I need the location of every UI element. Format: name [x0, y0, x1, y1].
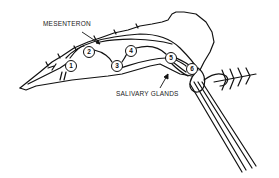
mesenteron-label: MESENTERON — [43, 20, 91, 27]
proboscis — [190, 82, 256, 172]
marker-3: 3 — [111, 60, 123, 72]
gut-line — [28, 64, 66, 84]
marker-2: 2 — [83, 46, 95, 58]
marker-6: 6 — [186, 63, 198, 75]
mosquito-diagram: MESENTERON SALIVARY GLANDS 1 2 3 4 5 6 — [0, 0, 279, 178]
marker-5: 5 — [165, 52, 177, 64]
marker-1: 1 — [65, 60, 77, 72]
anatomy-drawing — [0, 0, 279, 178]
marker-4: 4 — [125, 45, 137, 57]
salivary-glands-label: SALIVARY GLANDS — [116, 90, 179, 97]
